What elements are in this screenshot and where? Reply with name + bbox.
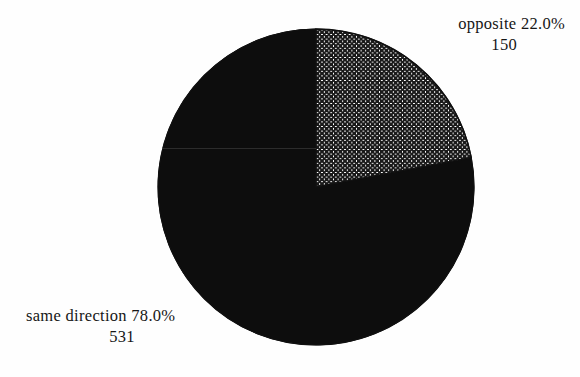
slice-label-opposite: opposite 22.0% 150 — [415, 13, 565, 56]
slice-label-same-direction-text: same direction 78.0% — [26, 306, 175, 325]
pie-chart-figure: opposite 22.0% 150 same direction 78.0% … — [0, 0, 580, 377]
slice-label-same-direction: same direction 78.0% 531 — [26, 305, 256, 348]
slice-label-opposite-count: 150 — [415, 34, 565, 55]
slice-label-same-direction-count: 531 — [26, 326, 256, 347]
slice-label-opposite-text: opposite 22.0% — [458, 14, 565, 33]
